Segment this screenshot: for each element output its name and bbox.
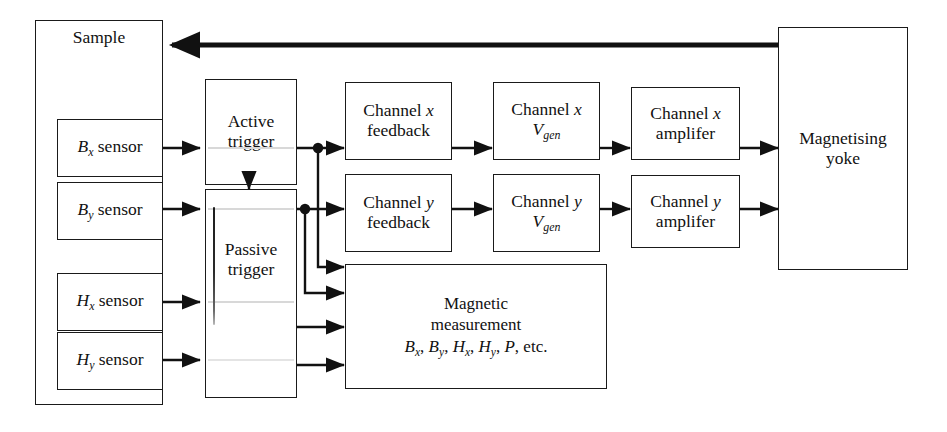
node-hx-sensor[interactable]: Hx sensor bbox=[57, 273, 163, 331]
wire-passive-trigger-to-measurement bbox=[305, 209, 344, 293]
node-channel-x-feedback[interactable]: Channel xfeedback bbox=[345, 82, 452, 160]
node-hx-sensor-label: Hx sensor bbox=[58, 291, 162, 313]
node-active-trigger[interactable]: Activetrigger bbox=[205, 79, 297, 185]
node-passive-trigger[interactable]: Passivetrigger bbox=[205, 189, 297, 398]
node-bx-sensor-label: Bx sensor bbox=[58, 137, 162, 159]
node-channel-y-feedback-label: Channel yfeedback bbox=[346, 193, 451, 232]
node-channel-y-amplifier-label: Channel yamplifer bbox=[632, 192, 739, 231]
node-channel-x-vgen-label: Channel xVgen bbox=[494, 100, 599, 142]
block-diagram-figure: Sample Bx sensor By sensor Hx sensor Hy … bbox=[0, 0, 947, 432]
magnetic-measurement-quantities: Bx, By, Hx, Hy, P, etc. bbox=[405, 337, 548, 356]
node-active-trigger-label: Activetrigger bbox=[206, 112, 296, 151]
node-channel-x-amplifier-label: Channel xamplifer bbox=[632, 104, 739, 143]
node-channel-y-feedback[interactable]: Channel yfeedback bbox=[345, 174, 452, 252]
node-magnetising-yoke[interactable]: Magnetisingyoke bbox=[778, 27, 908, 270]
junction-dot-active-trigger bbox=[313, 143, 323, 153]
node-magnetising-yoke-label: Magnetisingyoke bbox=[779, 129, 907, 168]
node-channel-x-feedback-label: Channel xfeedback bbox=[346, 101, 451, 140]
node-bx-sensor[interactable]: Bx sensor bbox=[57, 119, 163, 177]
wire-active-trigger-to-measurement bbox=[318, 148, 344, 267]
node-sample-label: Sample bbox=[36, 28, 162, 48]
node-hy-sensor[interactable]: Hy sensor bbox=[57, 332, 163, 390]
node-by-sensor[interactable]: By sensor bbox=[57, 182, 163, 240]
node-hy-sensor-label: Hy sensor bbox=[58, 350, 162, 372]
node-channel-y-vgen[interactable]: Channel yVgen bbox=[493, 174, 600, 252]
node-magnetic-measurement[interactable]: Magnetic measurement Bx, By, Hx, Hy, P, … bbox=[345, 264, 607, 389]
node-channel-y-amplifier[interactable]: Channel yamplifer bbox=[631, 175, 740, 248]
node-passive-trigger-label: Passivetrigger bbox=[206, 240, 296, 279]
node-channel-x-vgen[interactable]: Channel xVgen bbox=[493, 82, 600, 160]
junction-dot-passive-trigger bbox=[300, 204, 310, 214]
node-by-sensor-label: By sensor bbox=[58, 200, 162, 222]
node-channel-x-amplifier[interactable]: Channel xamplifer bbox=[631, 87, 740, 160]
node-channel-y-vgen-label: Channel yVgen bbox=[494, 192, 599, 234]
node-magnetic-measurement-label: Magnetic measurement Bx, By, Hx, Hy, P, … bbox=[346, 293, 606, 360]
